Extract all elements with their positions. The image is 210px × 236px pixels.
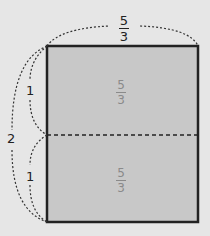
- diagram-graphic: [0, 0, 210, 236]
- left-outer-brace: [12, 46, 47, 222]
- denominator: 3: [117, 94, 125, 106]
- denominator: 3: [120, 30, 128, 43]
- numerator: 5: [120, 14, 128, 27]
- top-width-label: 5 3: [119, 14, 129, 43]
- denominator: 3: [117, 182, 125, 194]
- rectangle: [47, 46, 198, 222]
- left-upper-label: 1: [26, 82, 34, 99]
- numerator: 5: [117, 79, 125, 91]
- lower-area-label: 5 3: [116, 167, 126, 194]
- left-lower-label: 1: [26, 168, 34, 185]
- left-total-label: 2: [7, 130, 15, 147]
- numerator: 5: [117, 167, 125, 179]
- upper-area-label: 5 3: [116, 79, 126, 106]
